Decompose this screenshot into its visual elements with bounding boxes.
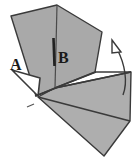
label-a: A <box>10 56 22 73</box>
label-b: B <box>58 49 69 66</box>
figure-container: A B <box>0 0 137 159</box>
tick-mark <box>27 104 34 107</box>
vertical-crease-b <box>54 38 55 66</box>
folded-paper-diagram: A B <box>0 0 137 159</box>
rotation-arrow-head-icon <box>112 40 121 53</box>
